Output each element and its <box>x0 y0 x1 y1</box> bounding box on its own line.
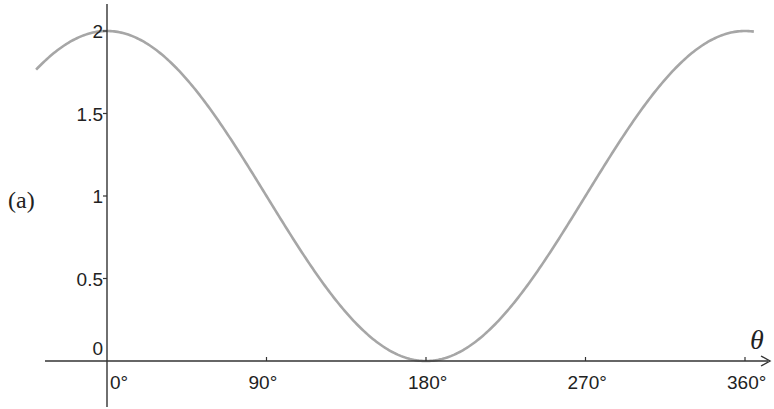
tick-labels: 0°90°180°270°360°00.511.52 <box>77 21 767 393</box>
chart: 0°90°180°270°360°00.511.52 (a) θ <box>0 0 774 409</box>
axes <box>45 4 770 407</box>
part-label: (a) <box>8 187 35 213</box>
curve-1-plus-cos-theta <box>36 31 754 361</box>
y-tick-label: 2 <box>92 21 103 42</box>
x-tick-label: 270° <box>568 372 607 393</box>
x-tick-label: 90° <box>249 372 278 393</box>
y-tick-label: 0 <box>92 338 103 359</box>
x-axis-title-theta: θ <box>750 324 764 355</box>
data-curve <box>36 31 754 361</box>
y-tick-label: 0.5 <box>77 269 103 290</box>
y-tick-label: 1 <box>92 186 103 207</box>
x-tick-label: 0° <box>110 372 128 393</box>
x-tick-label: 360° <box>727 372 766 393</box>
x-tick-label: 180° <box>408 372 447 393</box>
y-tick-label: 1.5 <box>77 104 103 125</box>
